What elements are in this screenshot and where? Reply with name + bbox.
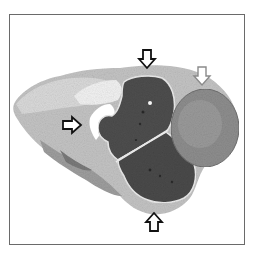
tissue-section-image — [0, 0, 256, 256]
round-nodule — [171, 89, 239, 167]
arrow-bottom-icon — [146, 213, 162, 231]
